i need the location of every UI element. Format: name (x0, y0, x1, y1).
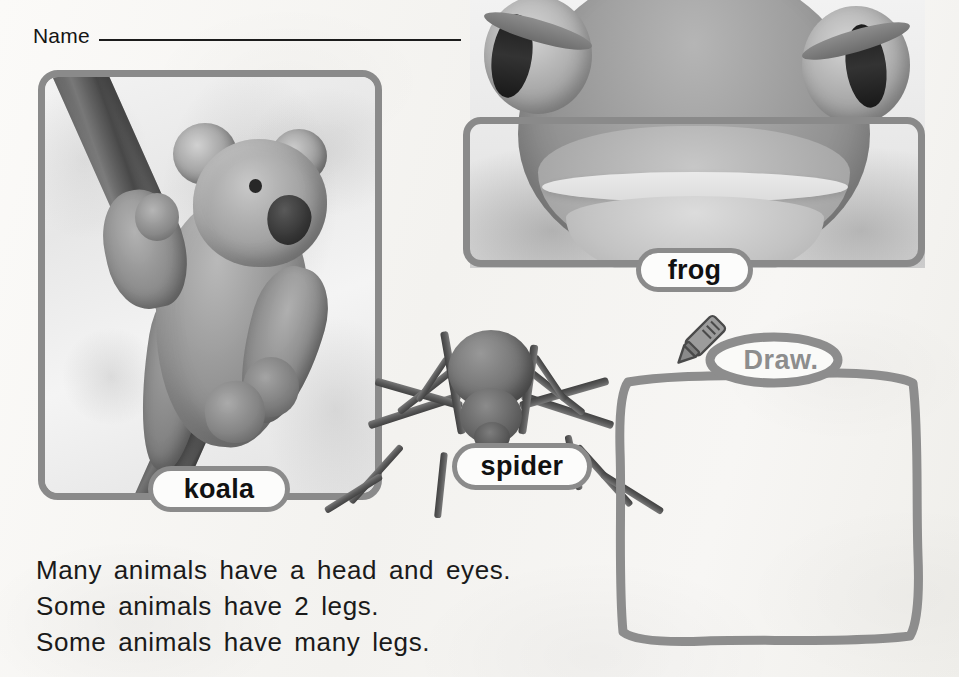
spider-leg (434, 452, 448, 518)
draw-answer-box[interactable] (610, 360, 930, 652)
sentence-line: Some animals have many legs. (36, 624, 596, 660)
spider-photo (352, 322, 624, 532)
sentence-line: Some animals have 2 legs. (36, 588, 596, 624)
koala-photo-frame (38, 70, 382, 500)
label-text-frog: frog (668, 255, 722, 286)
draw-badge-label: Draw. (729, 345, 818, 376)
sentence-block: Many animals have a head and eyes. Some … (36, 552, 596, 660)
label-pill-frog: frog (636, 248, 753, 292)
name-write-line[interactable] (99, 39, 461, 41)
label-text-koala: koala (184, 474, 255, 505)
koala-eye (249, 179, 262, 193)
frog-frame-inner (470, 124, 918, 260)
worksheet-page: Name (0, 0, 959, 677)
label-text-spider: spider (481, 451, 564, 482)
koala-hand (135, 193, 179, 241)
koala-photo (45, 77, 375, 493)
name-label: Name (33, 24, 90, 48)
draw-box-outline (610, 360, 930, 652)
crayon-icon (662, 305, 736, 379)
label-pill-spider: spider (452, 443, 592, 490)
name-field[interactable]: Name (33, 24, 461, 48)
label-pill-koala: koala (148, 466, 290, 512)
frog-photo-frame (463, 117, 925, 267)
sentence-line: Many animals have a head and eyes. (36, 552, 596, 588)
